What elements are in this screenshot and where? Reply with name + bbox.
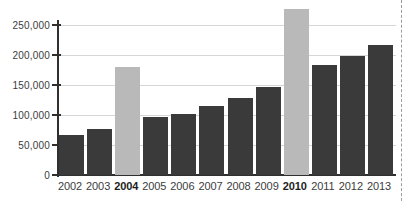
bar-2012[interactable]	[340, 56, 365, 175]
x-axis-tick-label-2008: 2008	[225, 180, 253, 192]
bar-chart: 050,000100,000150,000200,000250,000 2002…	[0, 0, 411, 201]
x-axis-tick-label-2002: 2002	[56, 180, 84, 192]
x-axis-tick-label-2012: 2012	[337, 180, 365, 192]
bar-2006[interactable]	[171, 114, 196, 175]
bar-2010[interactable]	[284, 9, 309, 175]
x-axis-tick-label-2010: 2010	[281, 180, 309, 192]
x-axis-tick-label-2004: 2004	[112, 180, 140, 192]
y-axis-tick-label: 150,000	[12, 80, 50, 91]
y-axis-labels: 050,000100,000150,000200,000250,000	[0, 0, 50, 201]
x-axis-tick-label-2003: 2003	[84, 180, 112, 192]
x-axis-tick-label-2009: 2009	[253, 180, 281, 192]
y-axis-tick-label: 0	[44, 170, 50, 181]
x-axis-tick-label-2005: 2005	[140, 180, 168, 192]
bar-2008[interactable]	[228, 98, 253, 175]
x-axis-tick-label-2006: 2006	[168, 180, 196, 192]
bar-2007[interactable]	[199, 106, 224, 175]
bar-2003[interactable]	[87, 129, 112, 175]
plot-area: 050,000100,000150,000200,000250,000 2002…	[0, 0, 411, 201]
bar-2013[interactable]	[368, 45, 393, 175]
bar-2002[interactable]	[59, 135, 84, 175]
bar-2005[interactable]	[143, 117, 168, 175]
x-axis-tick-label-2007: 2007	[196, 180, 224, 192]
x-axis-tick-label-2013: 2013	[365, 180, 393, 192]
x-axis-tick-label-2011: 2011	[309, 180, 337, 192]
y-axis-tick-label: 200,000	[12, 50, 50, 61]
y-axis-tick-label: 50,000	[18, 140, 50, 151]
bar-2009[interactable]	[256, 87, 281, 175]
y-axis-tick-label: 100,000	[12, 110, 50, 121]
gridline	[59, 25, 396, 26]
bar-2004[interactable]	[115, 67, 140, 175]
page-edge-dashed-line	[401, 0, 402, 201]
bar-2011[interactable]	[312, 65, 337, 175]
y-axis-tick-label: 250,000	[12, 20, 50, 31]
